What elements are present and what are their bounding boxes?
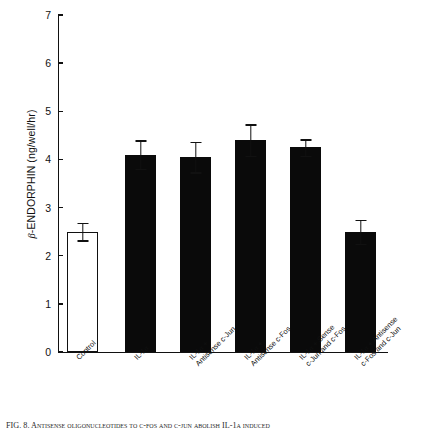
error-bar-line (360, 220, 361, 244)
error-bar-cap-lower (135, 169, 146, 170)
y-tick-label: 1 (45, 299, 51, 310)
bar-series (58, 15, 388, 352)
error-bar-cap-lower (190, 172, 201, 173)
y-tick-label: 2 (45, 250, 51, 261)
error-bar-cap-lower (300, 156, 311, 157)
error-bar-cap-lower (355, 244, 366, 245)
bar-group (235, 15, 266, 352)
plot-area: 01234567 (58, 15, 388, 352)
error-bar-line (305, 139, 306, 155)
figure-panel: β-ENDORPHIN (ng/well/hr) 01234567 Contro… (0, 0, 439, 432)
y-tick-label: 7 (45, 10, 51, 21)
bar-group (125, 15, 156, 352)
error-bar-cap-upper (300, 139, 311, 140)
y-axis-title-text: -ENDORPHIN (ng/well/hr) (25, 110, 37, 234)
error-bar-cap-lower (245, 156, 256, 157)
bar (125, 155, 156, 352)
bar-group (345, 15, 376, 352)
x-axis-line (58, 352, 388, 353)
error-bar-cap-upper (77, 223, 88, 224)
bar (235, 140, 266, 352)
error-bar-cap-upper (190, 142, 201, 143)
bar-group (290, 15, 321, 352)
beta-symbol: β (26, 233, 37, 238)
bar (180, 157, 211, 352)
figure-caption: FIG. 8. Antisense oligonucleotides to c-… (6, 421, 436, 432)
y-axis-title: β-ENDORPHIN (ng/well/hr) (25, 59, 37, 289)
y-tick-label: 4 (45, 154, 51, 165)
x-axis-tick-labels: ControlIL-1αIL-1α +Antisense c-JunIL-1α … (58, 356, 388, 416)
bar (67, 232, 98, 352)
y-tick-label: 5 (45, 106, 51, 117)
bar-group (180, 15, 211, 352)
error-bar-line (250, 124, 251, 156)
error-bar-cap-upper (355, 220, 366, 221)
y-tick-label: 3 (45, 202, 51, 213)
error-bar-cap-upper (135, 140, 146, 141)
y-tick-label: 0 (45, 347, 51, 358)
y-tick-label: 6 (45, 58, 51, 69)
error-bar-line (195, 142, 196, 173)
error-bar-cap-upper (245, 124, 256, 125)
bar (290, 147, 321, 352)
error-bar-line (82, 223, 83, 240)
figure-caption-text: FIG. 8. Antisense oligonucleotides to c-… (6, 421, 270, 430)
bar (345, 232, 376, 352)
bar-group (67, 15, 98, 352)
error-bar-cap-lower (77, 240, 88, 241)
error-bar-line (140, 140, 141, 169)
